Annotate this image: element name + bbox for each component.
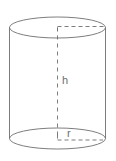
radius-label: r	[67, 127, 71, 139]
cylinder-diagram-svg: h r	[0, 0, 116, 161]
cylinder-figure: h r	[0, 0, 116, 161]
height-label: h	[62, 74, 68, 86]
